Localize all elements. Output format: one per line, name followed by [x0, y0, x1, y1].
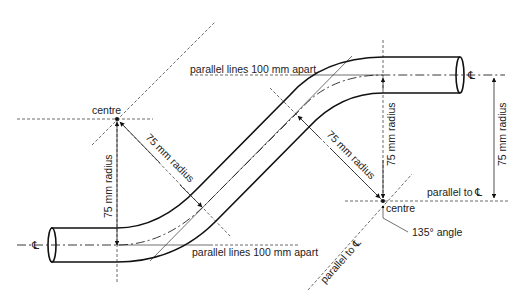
label-parallel-top: parallel lines 100 mm apart [190, 63, 316, 75]
label-centre-left: centre [92, 104, 121, 116]
label-radius-right-dimension: 75 mm radius [496, 102, 508, 166]
label-radius-right-vertical: 75 mm radius [385, 102, 397, 166]
pipe-offset-diagram: centre centre 75 mm radius 75 mm radius … [0, 0, 520, 301]
label-centre-right: centre [386, 202, 415, 214]
label-radius-left-diagonal: 75 mm radius [144, 131, 197, 184]
label-parallel-bottom: parallel lines 100 mm apart [192, 246, 318, 258]
label-radius-right-diagonal: 75 mm radius [325, 128, 378, 181]
label-135-angle: 135° angle [412, 226, 462, 238]
centreline-symbol-left: ℄ [31, 239, 39, 251]
label-parallel-to-cl-diagonal: parallel to ℄ [318, 236, 364, 285]
label-radius-left-vertical: 75 mm radius [102, 154, 114, 218]
centreline-symbol-right: ℄ [467, 69, 475, 81]
label-parallel-to-cl-horizontal: parallel to ℄ [427, 186, 482, 198]
